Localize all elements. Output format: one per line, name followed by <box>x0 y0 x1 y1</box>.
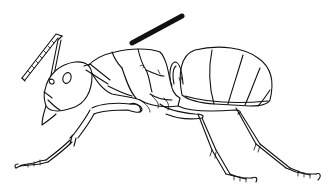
gaster <box>180 47 272 106</box>
mesosoma <box>88 49 180 107</box>
ant-illustration <box>0 0 335 195</box>
pointer-arrow <box>132 16 182 43</box>
front-leg <box>15 103 142 168</box>
